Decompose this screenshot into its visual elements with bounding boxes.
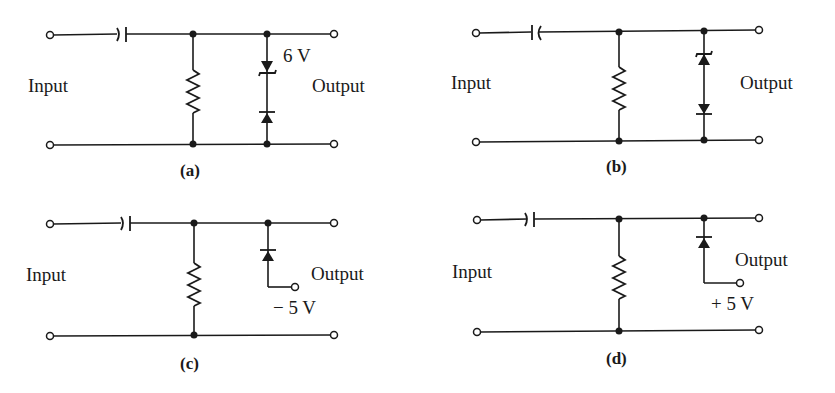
diode-icon: [696, 104, 712, 114]
circuit-diagrams: [0, 0, 835, 393]
input-terminal: [474, 329, 481, 336]
output-label-a: Output: [312, 76, 365, 95]
diode-icon: [696, 237, 712, 248]
input-label-b: Input: [451, 73, 491, 92]
junction-dot: [190, 141, 197, 148]
top-wire: [480, 219, 527, 220]
top-wire: [534, 218, 756, 219]
output-terminal: [756, 137, 763, 144]
bias-voltage-label-d: + 5 V: [711, 294, 754, 313]
output-label-b: Output: [740, 73, 793, 92]
input-terminal: [47, 333, 54, 340]
junction-dot: [264, 141, 271, 148]
circuit-b: [473, 25, 763, 146]
input-terminal: [47, 221, 54, 228]
caption-b: (b): [606, 158, 627, 175]
top-wire: [53, 34, 117, 35]
output-terminal: [756, 215, 763, 222]
junction-dot: [701, 28, 708, 35]
output-terminal: [331, 141, 338, 148]
output-terminal: [756, 27, 763, 34]
junction-dot: [190, 31, 197, 38]
diode-icon: [259, 112, 275, 123]
output-terminal: [756, 327, 763, 334]
top-wire: [539, 30, 757, 32]
input-label-c: Input: [26, 265, 66, 284]
junction-dot: [191, 332, 198, 339]
caption-a: (a): [180, 162, 200, 179]
junction-dot: [616, 328, 623, 335]
output-label-c: Output: [311, 264, 364, 283]
input-label-a: Input: [28, 76, 68, 95]
junction-dot: [616, 216, 623, 223]
junction-dot: [264, 31, 271, 38]
input-label-d: Input: [452, 262, 492, 281]
caption-c: (c): [180, 355, 199, 372]
resistor-icon: [613, 256, 625, 299]
top-wire: [479, 32, 531, 33]
junction-dot: [265, 220, 272, 227]
bias-voltage-label-c: − 5 V: [273, 298, 316, 317]
bias-terminal: [292, 284, 299, 291]
input-terminal: [473, 30, 480, 37]
output-terminal: [331, 220, 338, 227]
output-terminal: [331, 31, 338, 38]
output-terminal: [331, 332, 338, 339]
junction-dot: [616, 29, 623, 36]
junction-dot: [191, 220, 198, 227]
capacitor-icon: [525, 212, 534, 227]
bias-terminal: [737, 280, 744, 287]
circuit-c: [47, 216, 338, 340]
resistor-icon: [613, 67, 625, 110]
capacitor-icon: [121, 216, 130, 231]
resistor-icon: [187, 70, 199, 113]
resistor-icon: [188, 263, 200, 306]
circuit-d: [474, 212, 763, 336]
zener-diode-icon: [696, 51, 712, 65]
junction-dot: [701, 137, 708, 144]
input-terminal: [47, 32, 54, 39]
zener-diode-icon: [259, 61, 276, 76]
junction-dot: [616, 138, 623, 145]
input-terminal: [473, 139, 480, 146]
diode-icon: [260, 250, 276, 261]
capacitor-icon: [117, 27, 126, 42]
junction-dot: [701, 215, 708, 222]
input-terminal: [474, 217, 481, 224]
input-terminal: [47, 142, 54, 149]
zener-voltage-label-a: 6 V: [283, 46, 311, 65]
caption-d: (d): [606, 350, 627, 367]
output-label-d: Output: [735, 250, 788, 269]
top-wire: [53, 223, 121, 224]
